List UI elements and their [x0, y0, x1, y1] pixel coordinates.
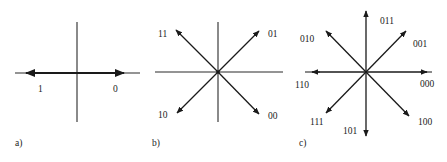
point-label-111: 111: [310, 117, 324, 127]
vector-11-arrow: [176, 30, 218, 72]
panel-caption-c: c): [299, 138, 306, 149]
panel-a-bpsk: 1 0 a): [15, 22, 140, 149]
vector-00-arrow: [218, 72, 259, 114]
point-label-101: 101: [343, 126, 358, 136]
point-label-11: 11: [158, 29, 167, 39]
vector-001-arrow: [366, 31, 406, 72]
point-label-00: 00: [268, 111, 278, 121]
vector-01-arrow: [218, 31, 259, 72]
constellation-diagrams: 1 0 a) 11 01 10 00 b) 000 001 011 010 11…: [0, 0, 447, 162]
point-label-000: 000: [420, 79, 435, 89]
point-label-0: 0: [113, 84, 118, 94]
panel-caption-b: b): [152, 138, 160, 149]
vector-010-arrow: [326, 31, 366, 72]
vector-100-arrow: [366, 72, 409, 116]
point-label-100: 100: [418, 117, 433, 127]
point-label-1: 1: [38, 84, 43, 94]
point-label-110: 110: [295, 80, 309, 90]
point-label-011: 011: [380, 16, 394, 26]
vector-111-arrow: [326, 72, 366, 113]
panel-caption-a: a): [15, 138, 22, 149]
point-label-010: 010: [300, 34, 315, 44]
panel-c-8psk: 000 001 011 010 110 111 101 100 c): [295, 11, 435, 149]
point-label-10: 10: [158, 110, 168, 120]
panel-b-qpsk: 11 01 10 00 b): [152, 22, 283, 149]
vector-10-arrow: [177, 72, 218, 113]
point-label-001: 001: [413, 39, 428, 49]
point-label-01: 01: [268, 29, 278, 39]
